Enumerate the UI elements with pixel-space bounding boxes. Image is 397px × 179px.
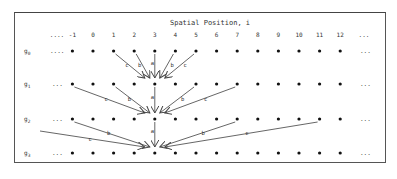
node-dot — [236, 82, 239, 85]
node-dot — [236, 151, 239, 154]
node-dot — [194, 49, 197, 52]
node-dot — [339, 117, 342, 120]
node-dot — [215, 151, 218, 154]
node-dot — [277, 49, 280, 52]
node-dot — [112, 49, 115, 52]
node-dot — [277, 117, 280, 120]
row-ellipsis-right: ... — [360, 80, 371, 87]
column-label: 8 — [256, 31, 260, 38]
gaussian-pyramid-diagram: Spatial Position, i....-1012345678910111… — [0, 0, 397, 179]
column-label: 10 — [295, 31, 303, 38]
node-dot — [215, 82, 218, 85]
column-label: 1 — [112, 31, 116, 38]
node-dot — [297, 49, 300, 52]
node-dot — [71, 49, 74, 52]
node-dot — [194, 151, 197, 154]
row-ellipsis: ... — [52, 80, 63, 87]
column-label: 5 — [194, 31, 198, 38]
node-dot — [112, 117, 115, 120]
edge-arrow — [116, 87, 150, 113]
edge-weight-label: b — [107, 130, 110, 136]
node-dot — [318, 49, 321, 52]
edge-arrow — [74, 122, 149, 147]
node-dot — [256, 82, 259, 85]
node-dot — [133, 117, 136, 120]
node-dot — [297, 117, 300, 120]
node-dot — [318, 151, 321, 154]
edge-arrow — [160, 87, 194, 113]
edge-arrow — [165, 54, 194, 78]
node-dot — [71, 82, 74, 85]
row-ellipsis: .... — [50, 47, 64, 54]
edge-weight-label: a — [151, 94, 154, 100]
node-dot — [215, 117, 218, 120]
edge-weight-label: c — [183, 62, 186, 68]
node-dot — [71, 151, 74, 154]
row-label-g1: g1 — [24, 80, 31, 89]
edge-weight-label: b — [202, 130, 205, 136]
node-dot — [153, 49, 156, 52]
node-dot — [339, 82, 342, 85]
node-dot — [194, 117, 197, 120]
node-dot — [277, 151, 280, 154]
column-label: -1 — [69, 31, 77, 38]
edge-weight-label: c — [105, 96, 108, 102]
node-dot — [174, 82, 177, 85]
edge-weight-label: b — [128, 96, 131, 102]
edge-weight-label: c — [245, 130, 248, 136]
node-dot — [256, 117, 259, 120]
node-dot — [91, 49, 94, 52]
row-ellipsis-right: ... — [360, 47, 371, 54]
node-dot — [236, 117, 239, 120]
node-dot — [133, 49, 136, 52]
edge-weight-label: b — [138, 62, 141, 68]
node-dot — [174, 49, 177, 52]
edge-arrow — [165, 122, 318, 147]
node-dot — [215, 49, 218, 52]
column-label: 3 — [153, 31, 157, 38]
node-dot — [91, 117, 94, 120]
column-label: ... — [359, 31, 370, 38]
node-dot — [112, 151, 115, 154]
column-label: .... — [50, 31, 64, 38]
node-dot — [153, 151, 156, 154]
row-ellipsis: ... — [52, 149, 63, 156]
node-dot — [236, 49, 239, 52]
node-dot — [339, 151, 342, 154]
row-ellipsis-right: ... — [360, 115, 371, 122]
node-dot — [112, 82, 115, 85]
edge-weight-label: c — [204, 96, 207, 102]
node-dot — [71, 117, 74, 120]
column-label: 9 — [277, 31, 281, 38]
node-dot — [256, 49, 259, 52]
node-dot — [153, 117, 156, 120]
edge-arrow — [40, 131, 145, 147]
row-label-g0: g0 — [24, 47, 31, 56]
column-label: 0 — [91, 31, 95, 38]
edge-arrow — [165, 87, 235, 113]
node-dot — [153, 82, 156, 85]
column-label: 12 — [337, 31, 345, 38]
node-dot — [297, 82, 300, 85]
column-label: 11 — [316, 31, 324, 38]
column-label: 2 — [132, 31, 136, 38]
edge-weight-label: b — [181, 96, 184, 102]
node-dot — [318, 117, 321, 120]
node-dot — [339, 49, 342, 52]
edge-weight-label: c — [88, 136, 91, 142]
node-dot — [256, 151, 259, 154]
node-dot — [133, 151, 136, 154]
node-dot — [297, 151, 300, 154]
diagram-title: Spatial Position, i — [170, 19, 250, 27]
node-dot — [91, 151, 94, 154]
row-label-g3: g3 — [24, 149, 31, 158]
edge-weight-label: a — [151, 60, 154, 66]
row-label-g2: g2 — [24, 115, 31, 124]
column-label: 6 — [215, 31, 219, 38]
node-dot — [133, 82, 136, 85]
node-dot — [277, 82, 280, 85]
column-label: 7 — [235, 31, 239, 38]
row-ellipsis: ... — [52, 115, 63, 122]
node-dot — [91, 82, 94, 85]
node-dot — [194, 82, 197, 85]
